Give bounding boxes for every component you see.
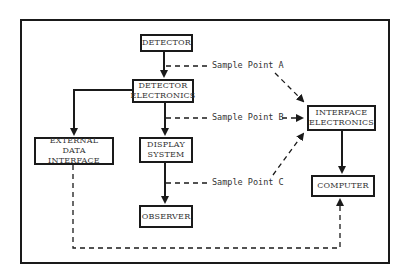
node-interface-electronics: INTERFACE ELECTRONICS — [307, 105, 376, 131]
node-external-data-interface: EXTERNAL DATA INTERFACE — [34, 137, 114, 165]
sample-point-c-label: Sample Point C — [212, 177, 284, 187]
dashed-arrow-external-to-computer — [73, 165, 340, 248]
arrow-electronics-to-external — [74, 90, 132, 134]
dashed-arrow-sample-c — [273, 134, 303, 175]
node-display-system: DISPLAY SYSTEM — [139, 137, 193, 163]
node-detector-electronics: DETECTOR ELECTRONICS — [132, 79, 194, 103]
node-computer: COMPUTER — [311, 175, 375, 197]
sample-point-a-label: Sample Point A — [212, 60, 284, 70]
node-observer: OBSERVER — [139, 205, 193, 228]
sample-point-b-label: Sample Point B — [212, 112, 284, 122]
node-detector: DETECTOR — [140, 34, 193, 52]
dashed-arrow-sample-a — [275, 73, 303, 101]
